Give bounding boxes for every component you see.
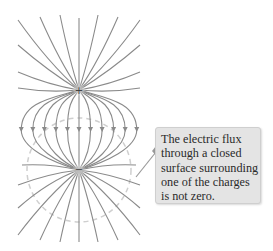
field-line xyxy=(79,170,118,240)
negative-charge-label: − xyxy=(75,164,83,175)
arrow-icon xyxy=(65,127,70,132)
field-line xyxy=(79,20,140,90)
field-line xyxy=(60,15,79,90)
callout-line: surface surrounding xyxy=(161,161,255,175)
field-line xyxy=(60,170,79,242)
arrow-icon xyxy=(53,127,58,132)
field-line xyxy=(40,17,79,90)
arrow-icon xyxy=(19,127,24,132)
positive-charge-label: + xyxy=(75,85,83,96)
field-line xyxy=(79,170,98,242)
callout-line: The electric flux xyxy=(161,132,255,146)
dipole-field-diagram: + − xyxy=(0,0,273,251)
callout-pointer xyxy=(136,152,156,177)
arrow-icon xyxy=(88,127,93,132)
field-line xyxy=(67,90,79,170)
callout-line: one of the charges xyxy=(161,175,255,189)
arrow-icon xyxy=(134,127,139,132)
field-lines xyxy=(18,15,140,242)
field-line xyxy=(79,90,137,170)
field-line xyxy=(79,90,91,170)
field-line xyxy=(21,90,79,170)
arrow-icon xyxy=(30,127,35,132)
arrow-icon xyxy=(123,127,128,132)
field-line xyxy=(79,17,118,90)
callout-line: through a closed xyxy=(161,146,255,160)
field-line xyxy=(79,15,98,90)
callout-line: is not zero. xyxy=(161,189,255,203)
arrow-icon xyxy=(100,127,105,132)
arrow-icon xyxy=(77,127,82,132)
callout-box: The electric flux through a closed surfa… xyxy=(155,127,261,204)
field-line xyxy=(18,20,79,90)
field-line xyxy=(40,170,79,240)
